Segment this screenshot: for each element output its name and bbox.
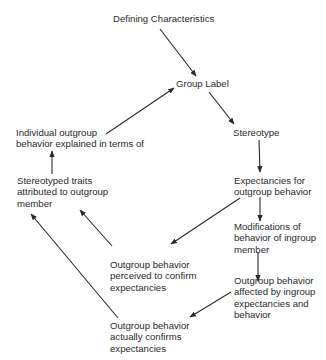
- node-text: behavior: [234, 309, 315, 320]
- node-text: outgroup behavior: [234, 186, 311, 197]
- node-individual-outgroup-behavior: Individual outgroup behavior explained i…: [16, 127, 144, 150]
- node-text: affected by ingroup: [234, 286, 315, 297]
- node-text: expectancies: [110, 343, 189, 354]
- node-text: expectancies and: [234, 298, 315, 309]
- arrow-affected-to-confirms: [190, 292, 231, 317]
- node-text: Expectancies for: [234, 175, 311, 186]
- node-text: member: [17, 198, 108, 209]
- node-text: Stereotyped traits: [17, 175, 108, 186]
- arrow-confirms-to-traits: [31, 214, 118, 318]
- node-text: perceived to confirm: [110, 270, 196, 281]
- node-stereotype: Stereotype: [233, 127, 279, 138]
- arrow-group-label-to-stereotype: [209, 92, 234, 124]
- node-outgroup-behavior-affected: Outgroup behavior affected by ingroup ex…: [234, 275, 315, 320]
- node-group-label: Group Label: [176, 78, 229, 89]
- node-defining-characteristics: Defining Characteristics: [113, 13, 214, 24]
- node-expectancies: Expectancies for outgroup behavior: [234, 175, 311, 198]
- arrow-expectancies-to-perceived: [171, 198, 240, 244]
- arrow-perceived-to-traits: [80, 210, 112, 246]
- node-text: behavior explained in terms of: [16, 138, 144, 149]
- node-text: Outgroup behavior: [234, 275, 315, 286]
- node-text: actually confirms: [110, 331, 189, 342]
- node-outgroup-behavior-perceived: Outgroup behavior perceived to confirm e…: [110, 259, 196, 293]
- node-text: member: [234, 244, 316, 255]
- arrow-defining-to-group-label: [160, 29, 196, 76]
- node-text: attributed to outgroup: [17, 186, 108, 197]
- node-stereotyped-traits: Stereotyped traits attributed to outgrou…: [17, 175, 108, 209]
- node-text: Outgroup behavior: [110, 259, 196, 270]
- node-text: Modifications of: [234, 221, 316, 232]
- node-text: expectancies: [110, 282, 196, 293]
- node-outgroup-behavior-confirms: Outgroup behavior actually confirms expe…: [110, 320, 189, 354]
- node-text: Defining Characteristics: [113, 13, 214, 24]
- node-text: Stereotype: [233, 127, 279, 138]
- node-text: Group Label: [176, 78, 229, 89]
- arrow-stereotype-to-expectancies: [259, 140, 260, 172]
- node-modifications-of-behavior: Modifications of behavior of ingroup mem…: [234, 221, 316, 255]
- node-text: Outgroup behavior: [110, 320, 189, 331]
- node-text: Individual outgroup: [16, 127, 144, 138]
- node-text: behavior of ingroup: [234, 232, 316, 243]
